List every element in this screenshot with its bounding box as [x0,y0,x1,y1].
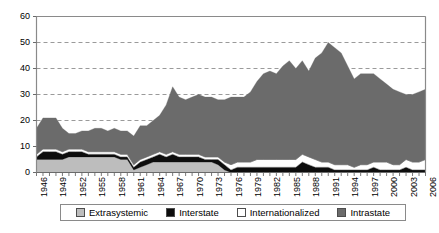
x-tick-label-1964: 1964 [157,176,166,196]
x-tick-label-1973: 1973 [215,176,224,196]
legend-label: Interstate [179,208,219,218]
x-tick-label-1979: 1979 [254,176,263,196]
y-tick-label-30: 30 [10,90,30,99]
y-tick-label-50: 50 [10,38,30,47]
y-tick-label-20: 20 [10,116,30,125]
x-tick-label-2000: 2000 [390,176,399,196]
legend-swatch-icon-interstate [166,208,175,217]
x-tick-label-1988: 1988 [312,176,321,196]
x-tick-label-2003: 2003 [410,176,419,196]
legend-label: Intrastate [350,208,390,218]
legend-swatch-icon-extrasystemic [76,208,85,217]
x-tick-label-2006: 2006 [429,176,438,196]
plot-svg [0,0,439,196]
x-tick-label-1961: 1961 [137,176,146,196]
legend-item-intrastate[interactable]: Intrastate [337,208,390,218]
legend-item-extrasystemic[interactable]: Extrasystemic [76,208,148,218]
x-tick-label-1994: 1994 [351,176,360,196]
y-tick-label-60: 60 [10,12,30,21]
x-tick-label-1967: 1967 [176,176,185,196]
x-tick-label-1991: 1991 [332,176,341,196]
legend-swatch-icon-intrastate [337,208,346,217]
stacked-area-chart: 6050403020100 19461949195219551958196119… [0,0,439,196]
x-tick-label-1958: 1958 [118,176,127,196]
y-tick-label-40: 40 [10,64,30,73]
legend-label: Extrasystemic [89,208,148,218]
legend-label: Internationalized [250,208,320,218]
legend-swatch-icon-internationalized [237,208,246,217]
x-tick-label-1946: 1946 [40,176,49,196]
y-tick-label-0: 0 [10,168,30,177]
x-tick-label-1949: 1949 [59,176,68,196]
chart-legend: ExtrasystemicInterstateInternationalized… [60,204,406,221]
legend-item-internationalized[interactable]: Internationalized [237,208,320,218]
chart-root: 6050403020100 19461949195219551958196119… [0,0,439,233]
x-tick-label-1997: 1997 [371,176,380,196]
y-tick-label-10: 10 [10,142,30,151]
x-tick-label-1970: 1970 [196,176,205,196]
x-tick-label-1985: 1985 [293,176,302,196]
legend-item-interstate[interactable]: Interstate [166,208,219,218]
x-tick-label-1955: 1955 [98,176,107,196]
x-tick-label-1982: 1982 [273,176,282,196]
x-tick-label-1976: 1976 [235,176,244,196]
x-tick-label-1952: 1952 [79,176,88,196]
